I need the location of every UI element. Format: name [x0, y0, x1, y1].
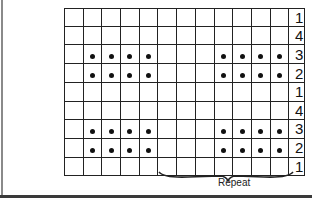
- stitch-cell: [83, 157, 102, 175]
- stitch-cell: [195, 9, 214, 27]
- stitch-cell: [139, 27, 158, 45]
- stitch-cell: [65, 9, 84, 27]
- stitch-cell: [233, 83, 252, 101]
- stitch-cell: [83, 27, 102, 45]
- purl-dot-icon: [127, 129, 132, 134]
- stitch-cell: [65, 101, 84, 119]
- row-number-label: 3: [289, 119, 305, 138]
- purl-dot-icon: [221, 73, 226, 78]
- stitch-cell: [65, 45, 84, 64]
- stitch-cell: [102, 83, 121, 101]
- purl-dot-icon: [146, 129, 151, 134]
- stitch-cell: [102, 45, 121, 64]
- stitch-cell: [233, 27, 252, 45]
- stitch-cell: [195, 45, 214, 64]
- purl-dot-icon: [240, 73, 245, 78]
- purl-dot-icon: [109, 148, 114, 153]
- stitch-cell: [102, 27, 121, 45]
- stitch-cell: [270, 9, 289, 27]
- stitch-cell: [139, 119, 158, 138]
- stitch-cell: [65, 83, 84, 101]
- stitch-cell: [177, 9, 196, 27]
- row-number-label: 1: [289, 9, 305, 27]
- stitch-cell: [158, 27, 177, 45]
- purl-dot-icon: [127, 73, 132, 78]
- stitch-cell: [139, 45, 158, 64]
- stitch-cell: [214, 64, 233, 83]
- stitch-cell: [270, 138, 289, 157]
- stitch-cell: [121, 157, 140, 175]
- stitch-cell: [102, 9, 121, 27]
- stitch-cell: [102, 119, 121, 138]
- stitch-cell: [177, 27, 196, 45]
- stitch-cell: [139, 83, 158, 101]
- stitch-cell: [158, 138, 177, 157]
- repeat-label: Repeat: [218, 177, 250, 188]
- stitch-cell: [270, 119, 289, 138]
- stitch-cell: [195, 64, 214, 83]
- stitch-cell: [102, 101, 121, 119]
- purl-dot-icon: [277, 54, 282, 59]
- purl-dot-icon: [127, 54, 132, 59]
- stitch-cell: [177, 45, 196, 64]
- stitch-cell: [121, 138, 140, 157]
- stitch-cell: [251, 138, 270, 157]
- stitch-cell: [102, 64, 121, 83]
- purl-dot-icon: [221, 148, 226, 153]
- stitch-cell: [83, 9, 102, 27]
- stitch-cell: [65, 157, 84, 175]
- stitch-cell: [83, 83, 102, 101]
- purl-dot-icon: [277, 148, 282, 153]
- stitch-cell: [195, 138, 214, 157]
- stitch-cell: [65, 64, 84, 83]
- stitch-cell: [83, 119, 102, 138]
- chart-row: 3: [65, 119, 305, 138]
- stitch-cell: [251, 64, 270, 83]
- stitch-cell: [270, 83, 289, 101]
- stitch-cell: [139, 64, 158, 83]
- stitch-cell: [177, 119, 196, 138]
- stitch-cell: [121, 119, 140, 138]
- purl-dot-icon: [146, 148, 151, 153]
- stitch-cell: [195, 119, 214, 138]
- stitch-cell: [251, 83, 270, 101]
- stitch-cell: [233, 64, 252, 83]
- purl-dot-icon: [90, 54, 95, 59]
- purl-dot-icon: [109, 129, 114, 134]
- stitch-cell: [121, 83, 140, 101]
- stitch-cell: [270, 101, 289, 119]
- chart-row: 1: [65, 9, 305, 27]
- stitch-cell: [139, 9, 158, 27]
- stitch-cell: [139, 157, 158, 175]
- row-number-label: 4: [289, 27, 305, 45]
- purl-dot-icon: [277, 129, 282, 134]
- stitch-cell: [158, 101, 177, 119]
- stitch-cell: [214, 27, 233, 45]
- purl-dot-icon: [240, 148, 245, 153]
- row-number-label: 2: [289, 64, 305, 83]
- stitch-cell: [233, 9, 252, 27]
- stitch-cell: [214, 138, 233, 157]
- stitch-cell: [158, 83, 177, 101]
- stitch-cell: [177, 64, 196, 83]
- stitch-cell: [251, 119, 270, 138]
- stitch-cell: [251, 27, 270, 45]
- stitch-cell: [214, 101, 233, 119]
- chart-row: 4: [65, 101, 305, 119]
- stitch-cell: [195, 101, 214, 119]
- purl-dot-icon: [146, 73, 151, 78]
- stitch-cell: [158, 45, 177, 64]
- stitch-cell: [177, 101, 196, 119]
- stitch-cell: [83, 45, 102, 64]
- row-number-label: 1: [289, 83, 305, 101]
- stitch-cell: [214, 9, 233, 27]
- stitch-cell: [121, 9, 140, 27]
- stitch-cell: [65, 27, 84, 45]
- stitch-cell: [233, 45, 252, 64]
- stitch-cell: [83, 138, 102, 157]
- purl-dot-icon: [258, 148, 263, 153]
- purl-dot-icon: [109, 54, 114, 59]
- purl-dot-icon: [109, 73, 114, 78]
- stitch-cell: [121, 45, 140, 64]
- stitch-cell: [65, 119, 84, 138]
